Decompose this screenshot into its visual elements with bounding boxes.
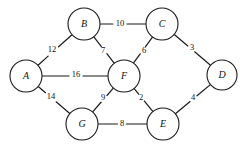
graph-edge-a-g	[56, 102, 69, 113]
graph-edge-d-e	[176, 102, 190, 114]
graph-edge-a-b	[38, 56, 48, 65]
edge-weight-c-f: 6	[142, 45, 146, 55]
graph-node-d[interactable]: D	[207, 60, 237, 90]
edge-weight-d-e: 4	[191, 92, 196, 102]
graph-edge-f-e	[144, 101, 152, 111]
node-label-c: C	[159, 18, 166, 29]
graph-node-g[interactable]: G	[66, 108, 98, 140]
weighted-graph-svg: ABCDEFG 101276316149248	[0, 0, 248, 150]
node-label-g: G	[78, 118, 85, 129]
graph-edge-c-f	[134, 54, 140, 63]
edge-weight-f-g: 9	[101, 92, 105, 102]
graph-edge-c-d	[195, 52, 211, 65]
graph-edge-d-e	[197, 85, 210, 96]
graph-edge-c-d	[175, 35, 188, 46]
edge-weight-g-e: 8	[120, 118, 124, 128]
node-label-a: A	[22, 70, 30, 81]
graph-edge-f-g	[93, 102, 101, 111]
edge-weight-f-e: 2	[139, 92, 143, 102]
edge-weight-b-c: 10	[116, 18, 125, 28]
graph-node-a[interactable]: A	[10, 60, 42, 92]
edge-weight-a-g: 14	[47, 91, 56, 101]
edge-weight-a-f: 16	[72, 69, 81, 79]
graph-diagram-canvas: ABCDEFG 101276316149248	[0, 0, 248, 150]
graph-node-c[interactable]: C	[146, 8, 178, 40]
node-label-f: F	[120, 70, 128, 81]
graph-edge-c-f	[146, 37, 153, 46]
graph-edge-f-g	[107, 88, 113, 95]
graph-node-e[interactable]: E	[147, 108, 179, 140]
graph-edge-b-f	[107, 54, 114, 63]
graph-node-f[interactable]: F	[108, 60, 140, 92]
graph-edge-a-b	[59, 35, 72, 47]
node-label-e: E	[159, 118, 166, 129]
edge-weight-c-d: 3	[190, 42, 194, 52]
edge-weight-b-f: 7	[101, 45, 105, 55]
node-label-b: B	[81, 18, 87, 29]
node-label-d: D	[217, 69, 226, 80]
graph-node-b[interactable]: B	[68, 8, 100, 40]
edge-weight-a-b: 12	[48, 44, 57, 54]
graph-edge-a-g	[39, 87, 46, 93]
